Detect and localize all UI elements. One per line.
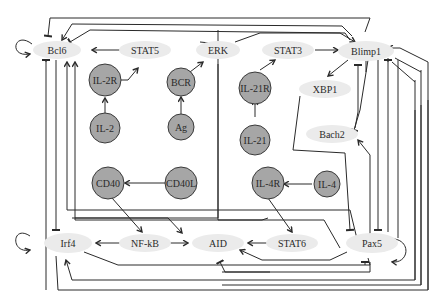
node-label: BCR (171, 77, 191, 88)
node-label: IL-21 (244, 135, 267, 146)
node-stat6: STAT6 (266, 234, 318, 252)
node-bcr: BCR (167, 68, 195, 96)
node-erk: ERK (196, 41, 240, 59)
node-cd40: CD40 (92, 167, 124, 199)
node-label: Bcl6 (48, 45, 67, 56)
node-label: STAT6 (278, 238, 306, 249)
node-nfkb: NF-kB (119, 234, 171, 252)
node-label: IL-2R (93, 75, 118, 86)
node-bach2: Bach2 (306, 125, 358, 143)
node-label: Ag (175, 122, 187, 133)
node-aid: AID (192, 234, 244, 252)
node-xbp1: XBP1 (299, 80, 351, 98)
node-cd40l: CD40L (165, 167, 197, 199)
node-il21r: IL-21R (239, 72, 271, 104)
node-label: STAT5 (131, 45, 159, 56)
node-stat5: STAT5 (119, 41, 171, 59)
node-label: IL-2 (96, 123, 114, 134)
nodes: Bcl6 STAT5 ERK STAT3 Blimp1 XBP1 Bach2 (33, 41, 398, 253)
node-label: AID (209, 238, 227, 249)
node-label: ERK (208, 45, 229, 56)
node-blimp1: Blimp1 (338, 41, 394, 61)
node-irf4: Irf4 (44, 233, 92, 253)
node-label: IL-4R (256, 178, 281, 189)
node-il4: IL-4 (314, 171, 340, 197)
node-label: CD40 (96, 178, 120, 189)
network-diagram: Bcl6 STAT5 ERK STAT3 Blimp1 XBP1 Bach2 (0, 0, 444, 306)
node-label: Blimp1 (351, 46, 381, 57)
node-label: Bach2 (319, 129, 345, 140)
node-stat3: STAT3 (262, 41, 314, 59)
node-label: IL-21R (240, 83, 270, 94)
node-il2r: IL-2R (89, 64, 121, 96)
node-label: NF-kB (131, 238, 159, 249)
node-label: Pax5 (362, 238, 382, 249)
node-il4r: IL-4R (252, 167, 284, 199)
node-ag: Ag (168, 114, 194, 140)
node-label: XBP1 (313, 84, 337, 95)
node-il2: IL-2 (90, 113, 120, 143)
node-label: CD40L (166, 178, 196, 189)
node-label: Irf4 (61, 238, 76, 249)
node-pax5: Pax5 (346, 233, 398, 253)
node-bcl6: Bcl6 (33, 41, 81, 59)
node-label: STAT3 (274, 45, 302, 56)
node-il21: IL-21 (240, 125, 270, 155)
node-label: IL-4 (318, 179, 336, 190)
